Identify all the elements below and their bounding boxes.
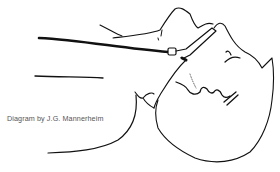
tube-to-mask	[176, 28, 216, 58]
eye	[225, 51, 240, 62]
diagram-caption: Diagram by J.G. Mannerheim	[7, 114, 103, 123]
tube-connector	[168, 48, 176, 55]
hand-lower	[135, 92, 154, 108]
mouth	[176, 82, 230, 97]
horizontal-line	[35, 76, 103, 78]
line-drawing	[0, 0, 280, 172]
chin-marks	[224, 92, 238, 105]
shoulder-lower	[48, 95, 136, 153]
head-outline	[156, 23, 274, 162]
diagram-illustration: Diagram by J.G. Mannerheim	[0, 0, 280, 172]
hand-upper	[100, 25, 122, 36]
tube	[39, 38, 168, 52]
